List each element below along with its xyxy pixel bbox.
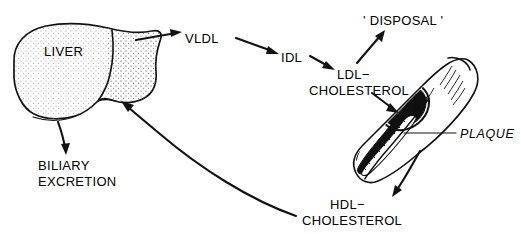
liver-label: LIVER xyxy=(44,44,83,59)
hdl-cholesterol-label-line2: CHOLESTEROL xyxy=(302,213,402,228)
arrow-idl-to-ldl xyxy=(310,56,335,70)
arrow-hdl-to-liver xyxy=(121,101,296,216)
arrow-ldl-to-disposal xyxy=(357,30,385,63)
biliary-excretion-label-line1: BILIARY xyxy=(38,158,90,173)
arrow-liver-to-biliary xyxy=(58,122,70,155)
biliary-excretion-label-line2: EXCRETION xyxy=(38,174,117,189)
diagram-canvas: LIVER xyxy=(0,0,521,234)
lipoprotein-pathway-diagram: LIVER xyxy=(0,0,521,234)
ldl-cholesterol-label-line1: LDL− xyxy=(337,67,370,82)
artery-illustration xyxy=(354,58,478,183)
plaque-label: PLAQUE xyxy=(460,127,514,141)
vldl-label: VLDL xyxy=(185,31,219,46)
idl-label: IDL xyxy=(281,50,302,65)
arrow-vldl-to-idl xyxy=(236,38,279,54)
hdl-cholesterol-label-line1: HDL− xyxy=(330,197,365,212)
ldl-cholesterol-label-line2: CHOLESTEROL xyxy=(309,83,409,98)
disposal-label: ' DISPOSAL ' xyxy=(363,13,443,28)
liver-lobe-notch xyxy=(98,100,116,102)
liver-stipple xyxy=(10,22,170,122)
liver-organ: LIVER xyxy=(10,22,170,122)
